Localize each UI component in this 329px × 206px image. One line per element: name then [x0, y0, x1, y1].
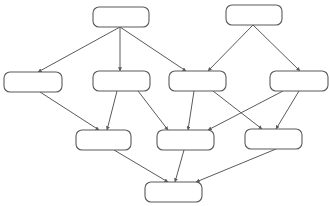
edge-f-to-h: [208, 91, 283, 130]
node-j: [145, 182, 202, 202]
nodes: [4, 5, 328, 202]
node-box: [4, 72, 62, 92]
node-g: [76, 130, 131, 150]
node-e: [169, 71, 226, 91]
edge-a-to-c: [38, 27, 120, 72]
edge-d-to-h: [138, 91, 168, 130]
edge-g-to-j: [114, 150, 168, 182]
node-box: [93, 71, 150, 91]
node-i: [245, 129, 302, 149]
edge-i-to-j: [196, 149, 276, 182]
node-box: [145, 182, 202, 202]
edge-h-to-j: [175, 150, 184, 182]
edge-b-to-f: [253, 25, 300, 71]
node-box: [245, 129, 302, 149]
edges: [38, 25, 300, 182]
node-f: [270, 71, 328, 91]
edge-d-to-g: [107, 91, 117, 130]
edge-f-to-i: [276, 91, 299, 129]
node-box: [93, 7, 149, 27]
node-box: [226, 5, 282, 25]
edge-a-to-e: [120, 27, 186, 71]
node-b: [226, 5, 282, 25]
node-box: [157, 130, 214, 150]
edge-c-to-g: [40, 92, 99, 130]
node-h: [157, 130, 214, 150]
node-c: [4, 72, 62, 92]
node-box: [169, 71, 226, 91]
diagram-canvas: [0, 0, 329, 206]
edge-e-to-h: [188, 91, 194, 130]
node-box: [270, 71, 328, 91]
edge-b-to-e: [208, 25, 253, 71]
dag-diagram: [0, 0, 329, 206]
node-d: [93, 71, 150, 91]
node-a: [93, 7, 149, 27]
node-box: [76, 130, 131, 150]
